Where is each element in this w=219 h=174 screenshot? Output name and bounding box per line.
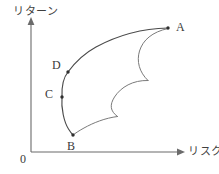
point-label-c: C (45, 88, 53, 100)
y-axis (28, 17, 35, 152)
diagram-canvas (0, 0, 219, 174)
point-marker-b (71, 133, 74, 136)
efficient-frontier-curve (62, 28, 168, 97)
point-label-b: B (67, 140, 75, 152)
x-axis-label: リスク (188, 146, 219, 157)
inner-scallop-middle (111, 80, 148, 116)
y-axis-label: リターン (13, 6, 58, 17)
inner-scallop-upper (138, 29, 168, 81)
lower-boundary-curve (62, 97, 73, 135)
origin-label: 0 (20, 153, 26, 165)
point-label-a: A (176, 21, 185, 33)
risk-return-diagram: リターン リスク 0 A D C B (0, 0, 219, 174)
point-marker-c (60, 95, 63, 98)
inner-scallop-lower (73, 117, 118, 136)
x-axis-arrow-icon (177, 149, 185, 156)
y-axis-arrow-icon (28, 17, 35, 25)
point-label-d: D (52, 59, 61, 71)
point-marker-d (66, 70, 69, 73)
point-marker-a (166, 26, 169, 29)
x-axis (31, 149, 185, 156)
